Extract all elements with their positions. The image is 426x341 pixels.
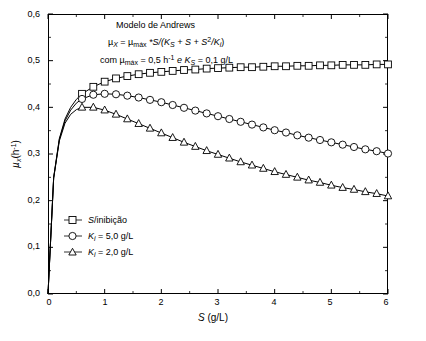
xtick-label: 6: [376, 297, 396, 307]
chart-annotation-title: Modelo de Andrews: [116, 20, 195, 30]
chart-canvas: [0, 0, 426, 341]
triangle-marker-icon: [62, 247, 84, 257]
xtick-label: 1: [95, 297, 115, 307]
xtick-label: 0: [39, 297, 59, 307]
y-axis-title: µx(h-1): [10, 124, 22, 184]
chart-annotation-params: com µmáx = 0,5 h-1 e KS = 0,1 g/L: [100, 54, 233, 66]
ytick-label: 0,2: [10, 195, 40, 205]
square-marker-icon: [62, 215, 84, 225]
legend-item-ki-5: Ki = 5,0 g/L: [62, 228, 133, 244]
xtick-label: 5: [320, 297, 340, 307]
xtick-label: 3: [207, 297, 227, 307]
chart-legend: SS/inibição/inibição Ki = 5,0 g/L Ki = 2…: [62, 212, 133, 260]
ytick-label: 0,1: [10, 241, 40, 251]
ytick-label: 0,5: [10, 55, 40, 65]
xtick-label: 2: [151, 297, 171, 307]
legend-item-ki-2: Ki = 2,0 g/L: [62, 244, 133, 260]
x-axis-title: S (g/L): [0, 312, 426, 323]
xtick-label: 4: [264, 297, 284, 307]
legend-item-s-inibicao: SS/inibição/inibição: [62, 212, 133, 228]
circle-marker-icon: [62, 231, 84, 241]
legend-label: Ki = 2,0 g/L: [84, 247, 133, 258]
ytick-label: 0,6: [10, 9, 40, 19]
chart-annotation-equation: µX = µmáx *S/(KS + S + S2/Ki): [108, 36, 224, 48]
chart-root: 0,0 0,1 0,2 0,3 0,4 0,5 0,6 0 1 2 3 4 5 …: [0, 0, 426, 341]
legend-label: SS/inibição/inibição: [84, 215, 127, 225]
legend-label: Ki = 5,0 g/L: [84, 231, 133, 242]
ytick-label: 0,4: [10, 102, 40, 112]
ytick-label: 0,0: [10, 288, 40, 298]
